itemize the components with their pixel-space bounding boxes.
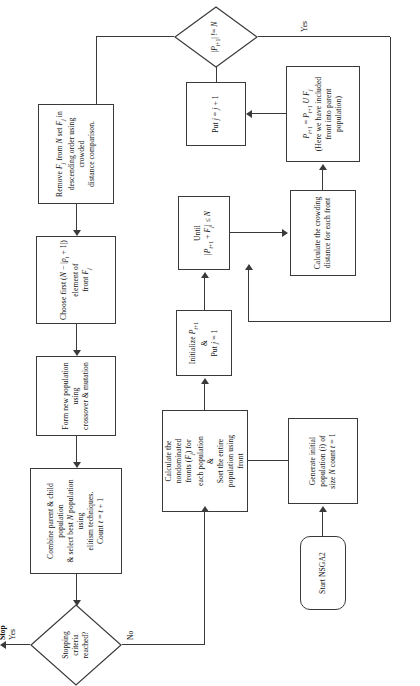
node-crowding-distance-label: Calculate the crowdingdistance for each … [313,194,333,272]
edge-crowding-to-union [322,170,323,190]
decision-population-size-check-label: |Pt+1| != N [210,13,222,61]
edge-fronts-to-initialize [204,384,205,410]
node-until-condition-label: Until|Pt+1 + Fj| ≤ N [193,200,215,266]
decision-stopping-criteria: Stoppingcriteriareached? [30,604,122,686]
edge-stopping-yes [6,644,30,645]
node-stop-label: Stop [0,625,7,640]
edge-until-to-crowding [230,232,282,233]
node-remove-front: Remove Fj from N set Fj indescending ord… [38,104,114,204]
edge-checkn-yes-left [390,37,391,322]
edge-start-to-init [322,512,323,536]
node-calculate-nondominated-fronts-label: Calculate thenondominatedfronts (Fj) for… [164,414,246,508]
edge-checkn-up [96,36,174,37]
edge-checkn-yes-into-until [248,270,249,322]
node-put-j-increment-label: Put j = j + 1 [211,86,221,142]
arrowhead-start-to-init [319,506,327,512]
edge-checkn-yes-down [258,36,390,37]
node-union-front-parent-label: Pt+1 = Pt+1 U Fj(Here we have includedfr… [302,70,344,158]
node-choose-first-elements: Choose first (N − |pt + 1|) element offr… [36,236,116,324]
node-generate-initial-population-label: Generate initialpopulation (i) ofsize N … [308,422,338,500]
node-calculate-nondominated-fronts: Calculate thenondominatedfronts (Fj) for… [162,410,248,512]
edge-union-to-putj [252,113,286,114]
node-form-new-population: Form new population usingcrossover & mut… [36,356,116,436]
node-start-label: Start NSGA2 [318,540,328,606]
node-initialize-population-label: Initialize Pt+1&Put j = 1 [188,314,220,372]
edge-init-to-fronts [248,460,288,461]
edge-stopping-no-down [122,644,204,645]
node-start: Start NSGA2 [300,536,346,610]
arrowhead-until-to-crowding [282,229,288,237]
edge-combine-to-stopping [76,574,77,600]
arrowhead-fronts-to-initialize [201,378,209,384]
node-initialize-population: Initialize Pt+1&Put j = 1 [176,310,232,376]
edge-label-yes-stop: Yes [8,629,17,640]
node-choose-first-elements-label: Choose first (N − |pt + 1|) element offr… [59,240,92,320]
node-until-condition: Until|Pt+1 + Fj| ≤ N [178,196,230,270]
edge-checkn-up-to-remove [96,37,97,104]
arrowhead-initialize-to-until [201,272,209,278]
edge-form-to-combine [76,436,77,462]
edge-label-yes-loop: Yes [300,21,309,32]
edge-stopping-no-right [204,512,205,646]
node-crowding-distance: Calculate the crowdingdistance for each … [290,190,356,276]
node-form-new-population-label: Form new population usingcrossover & mut… [61,360,91,432]
edge-remove-to-choose [76,204,77,230]
decision-stopping-criteria-label: Stoppingcriteriareached? [61,613,91,677]
arrowhead-stopping-yes [0,641,6,649]
node-put-j-increment: Put j = j + 1 [186,82,246,146]
edge-label-no: No [126,631,135,640]
arrowhead-stopping-no-to-fronts [201,506,209,512]
node-generate-initial-population: Generate initialpopulation (i) ofsize N … [288,418,358,504]
edge-checkn-yes-up-to-until [248,321,390,322]
node-combine-populations-label: Combine parent & child population& selec… [46,472,106,570]
node-combine-populations: Combine parent & child population& selec… [30,468,122,574]
decision-population-size-check: |Pt+1| != N [174,6,258,68]
arrowhead-checkn-yes-into-until [245,264,253,270]
edge-initialize-to-until [204,278,205,310]
arrowhead-union-to-putj [246,110,252,118]
node-union-front-parent: Pt+1 = Pt+1 U Fj(Here we have includedfr… [286,66,360,162]
arrowhead-crowding-to-union [319,164,327,170]
node-remove-front-label: Remove Fj from N set Fj indescending ord… [55,108,97,200]
edge-choose-to-form [76,324,77,350]
